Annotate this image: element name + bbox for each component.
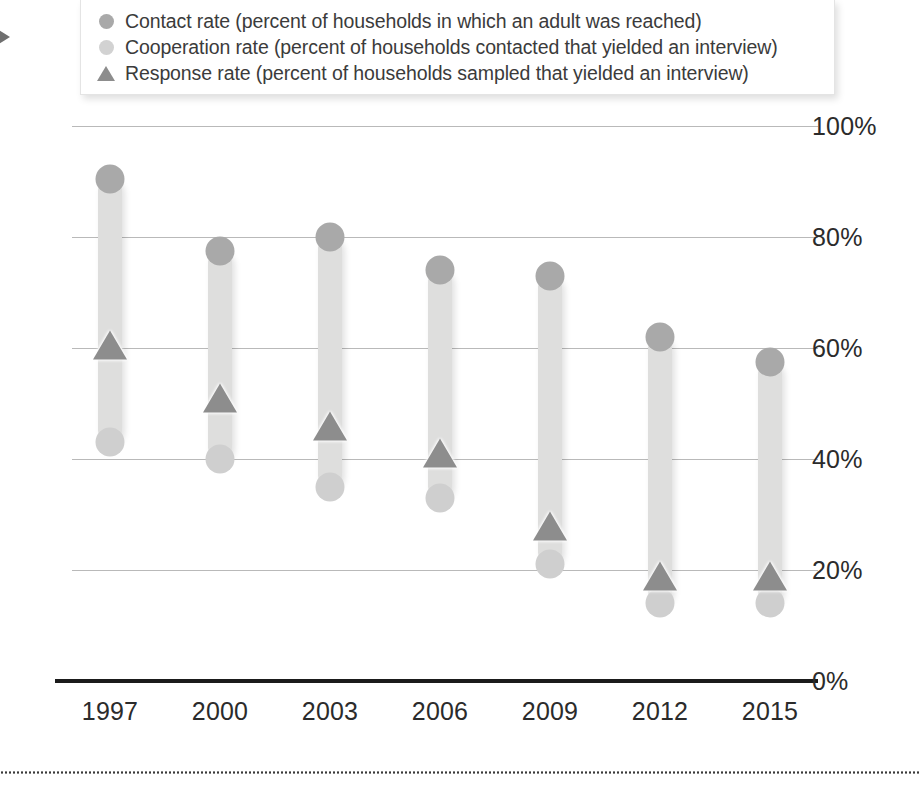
contact-rate-marker <box>756 347 785 376</box>
cooperation-rate-marker <box>426 483 455 512</box>
contact-rate-marker <box>206 236 235 265</box>
response-rate-marker <box>533 511 567 540</box>
y-axis-label-0: 0% <box>812 667 849 696</box>
x-axis-baseline <box>55 679 810 683</box>
contact-rate-marker <box>316 223 345 252</box>
response-rate-marker <box>203 383 237 412</box>
y-axis-label-80: 80% <box>812 223 863 252</box>
contact-rate-marker <box>536 261 565 290</box>
response-rate-marker <box>423 439 457 468</box>
x-axis-label-2009: 2009 <box>522 697 578 726</box>
x-axis-label-1997: 1997 <box>82 697 138 726</box>
y-axis-label-100: 100% <box>812 112 877 141</box>
x-axis-label-2006: 2006 <box>412 697 468 726</box>
response-rate-marker <box>753 561 787 590</box>
footer-dotted-divider <box>0 771 920 774</box>
cooperation-rate-marker <box>536 550 565 579</box>
range-bar <box>98 179 122 443</box>
contact-rate-marker <box>426 256 455 285</box>
contact-rate-marker <box>96 164 125 193</box>
range-bar <box>208 251 232 459</box>
contact-rate-marker <box>646 322 675 351</box>
cooperation-rate-marker <box>316 472 345 501</box>
response-rate-marker <box>643 561 677 590</box>
cooperation-rate-marker <box>756 589 785 618</box>
cooperation-rate-marker <box>646 589 675 618</box>
x-axis-label-2012: 2012 <box>632 697 688 726</box>
response-rate-marker <box>93 331 127 360</box>
y-axis-label-60: 60% <box>812 334 863 363</box>
x-axis-label-2000: 2000 <box>192 697 248 726</box>
cooperation-rate-marker <box>206 445 235 474</box>
x-axis-label-2015: 2015 <box>742 697 798 726</box>
cooperation-rate-marker <box>96 428 125 457</box>
range-bar <box>318 237 342 487</box>
gridline-20 <box>72 570 802 571</box>
chart-plot-area: 0%20%40%60%80%100%1997200020032006200920… <box>0 0 920 791</box>
y-axis-label-40: 40% <box>812 445 863 474</box>
x-axis-label-2003: 2003 <box>302 697 358 726</box>
gridline-100 <box>72 126 802 127</box>
response-rate-marker <box>313 411 347 440</box>
gridline-80 <box>72 237 802 238</box>
y-axis-label-20: 20% <box>812 556 863 585</box>
